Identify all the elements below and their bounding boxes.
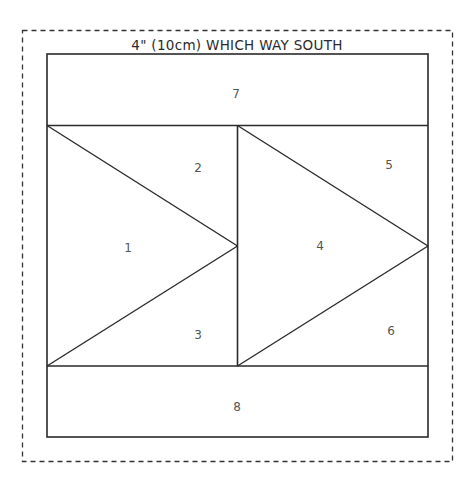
diagonal-right-lower bbox=[238, 246, 429, 366]
piece-label-3: 3 bbox=[194, 328, 202, 342]
pattern-title: 4" (10cm) WHICH WAY SOUTH bbox=[0, 37, 462, 53]
pattern-diagram bbox=[0, 0, 462, 479]
diagonal-right-upper bbox=[238, 126, 429, 247]
piece-label-8: 8 bbox=[233, 400, 241, 414]
piece-label-5: 5 bbox=[385, 158, 393, 172]
piece-label-1: 1 bbox=[124, 241, 132, 255]
diagonal-left-upper bbox=[47, 126, 238, 247]
piece-label-4: 4 bbox=[316, 239, 324, 253]
piece-label-2: 2 bbox=[194, 161, 202, 175]
diagonal-left-lower bbox=[47, 246, 238, 366]
piece-label-6: 6 bbox=[387, 324, 395, 338]
piece-label-7: 7 bbox=[232, 87, 240, 101]
